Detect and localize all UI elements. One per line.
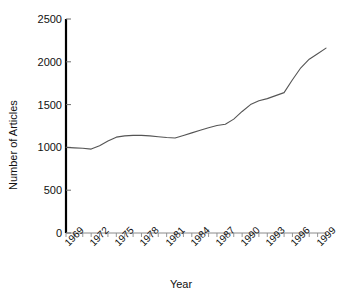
x-axis-tick-label: 1993: [264, 225, 287, 248]
x-axis-tick-label: 1978: [138, 225, 161, 248]
x-axis-tick-label: 1981: [164, 225, 187, 248]
x-axis-tick-label: 1972: [88, 225, 111, 248]
x-axis-tick-label: 1996: [289, 225, 312, 248]
x-axis-title: Year: [140, 278, 192, 290]
x-axis-tick-label: 1984: [189, 225, 212, 248]
x-axis-tick-label: 1990: [239, 225, 262, 248]
x-axis-tick-label: 1999: [315, 225, 337, 248]
x-axis-tick-label: 1987: [214, 225, 237, 248]
x-axis-title-wrap: Year: [0, 278, 332, 290]
x-axis-tick-label: 1975: [113, 225, 136, 248]
x-axis-tick-label: 1969: [63, 225, 86, 248]
